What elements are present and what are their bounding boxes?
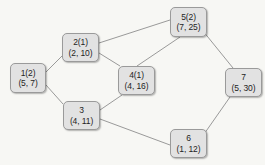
graph-edge-1-2 — [46, 56, 62, 72]
node-id-label: 3 — [79, 105, 84, 115]
node-pair-label: (4, 11) — [70, 116, 93, 126]
graph-node-n5[interactable]: 5(2)(7, 25) — [170, 7, 207, 37]
graph-edge-5-7 — [203, 31, 233, 68]
graph-node-n6[interactable]: 6(1, 12) — [170, 129, 207, 158]
node-pair-label: (5, 7) — [18, 78, 37, 88]
graph-edge-2-4 — [99, 53, 120, 66]
graph-canvas: 1(2)(5, 7)2(1)(2, 10)3(4, 11)4(1)(4, 16)… — [0, 0, 265, 165]
node-id-label: 2(1) — [73, 37, 88, 47]
node-id-label: 7 — [241, 72, 246, 82]
node-pair-label: (7, 25) — [177, 22, 201, 32]
node-pair-label: (2, 10) — [69, 48, 93, 58]
graph-edge-4-5 — [137, 37, 180, 66]
graph-node-n7[interactable]: 7(5, 30) — [225, 68, 262, 97]
graph-edge-3-4 — [100, 95, 122, 110]
node-id-label: 5(2) — [181, 12, 196, 22]
node-id-label: 6 — [186, 133, 191, 143]
graph-edge-2-5 — [99, 20, 170, 43]
graph-edge-1-3 — [46, 85, 63, 104]
node-pair-label: (4, 16) — [125, 81, 149, 91]
node-id-label: 1(2) — [21, 68, 36, 78]
graph-node-n3[interactable]: 3(4, 11) — [63, 101, 100, 130]
node-pair-label: (1, 12) — [177, 144, 201, 154]
graph-edge-3-6 — [100, 119, 170, 145]
node-pair-label: (5, 30) — [232, 83, 256, 93]
graph-node-n4[interactable]: 4(1)(4, 16) — [118, 66, 155, 95]
node-id-label: 4(1) — [129, 70, 144, 80]
graph-node-n2[interactable]: 2(1)(2, 10) — [62, 33, 99, 62]
graph-node-n1[interactable]: 1(2)(5, 7) — [10, 63, 46, 93]
